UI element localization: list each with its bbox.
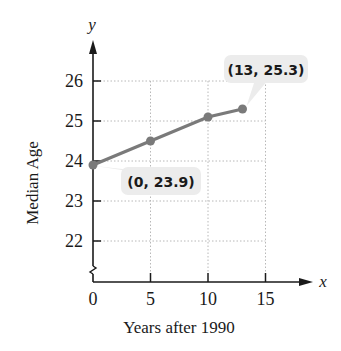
y-axis-title: Median Age <box>23 141 42 225</box>
callout: (13, 25.3) <box>224 55 308 106</box>
x-axis-symbol: x <box>318 272 327 291</box>
y-axis-arrow-icon <box>89 40 97 54</box>
data-point <box>238 105 247 114</box>
x-axis-arrow-icon <box>299 278 313 286</box>
y-axis-symbol: y <box>86 15 96 34</box>
callout: (0, 23.9) <box>95 166 201 195</box>
axis-break-icon <box>90 266 96 274</box>
callout-label: (0, 23.9) <box>127 174 194 190</box>
x-tick-label: 10 <box>199 289 217 309</box>
callout-label: (13, 25.3) <box>227 62 304 78</box>
y-tick-label: 26 <box>65 71 83 91</box>
data-series <box>89 105 248 170</box>
data-point <box>89 161 98 170</box>
y-tick-label: 22 <box>65 231 83 251</box>
x-tick-label: 15 <box>257 289 275 309</box>
x-tick-label: 5 <box>146 289 155 309</box>
x-axis-title: Years after 1990 <box>123 318 235 337</box>
callout-pointer <box>247 80 269 106</box>
annotations: (0, 23.9)(13, 25.3) <box>95 55 308 195</box>
line-chart: 2223242526051015 (0, 23.9)(13, 25.3) Yea… <box>0 0 341 351</box>
y-tick-label: 24 <box>65 151 83 171</box>
x-tick-label: 0 <box>89 289 98 309</box>
data-point <box>146 137 155 146</box>
series-line <box>93 109 243 165</box>
y-tick-label: 23 <box>65 191 83 211</box>
y-tick-label: 25 <box>65 111 83 131</box>
data-point <box>204 113 213 122</box>
